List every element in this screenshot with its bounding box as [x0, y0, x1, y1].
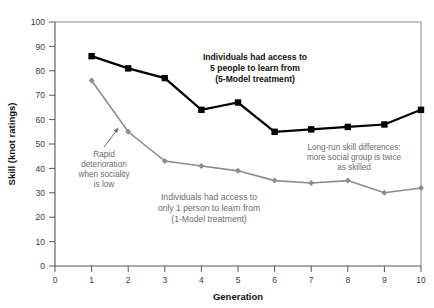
data-point-marker [308, 126, 314, 132]
annotation-line: Individuals had access to [203, 52, 307, 62]
y-tick-label: 90 [36, 42, 46, 52]
data-point-marker [381, 121, 387, 127]
x-tick-label: 10 [416, 275, 426, 285]
annotation-line: Rapid [93, 150, 115, 159]
annotation-line: (1-Model treatment) [171, 214, 247, 224]
y-tick-label: 20 [36, 212, 46, 222]
x-tick-label: 5 [236, 275, 241, 285]
x-tick-label: 4 [199, 275, 204, 285]
data-point-marker [271, 129, 277, 135]
data-point-marker [235, 99, 241, 105]
y-tick-label: 50 [36, 139, 46, 149]
data-point-marker [88, 53, 94, 59]
data-point-marker [125, 65, 131, 71]
annotation-line: (5-Model treatment) [215, 74, 295, 84]
y-tick-label: 40 [36, 164, 46, 174]
x-tick-label: 6 [272, 275, 277, 285]
annotation-line: deterioration [81, 160, 127, 169]
y-tick-label: 0 [40, 261, 45, 271]
annotation-line: is low [94, 180, 115, 189]
annotation-line: when sociality [78, 170, 131, 179]
annotation-line: 5 people to learn from [210, 63, 300, 73]
y-tick-label: 70 [36, 90, 46, 100]
y-axis-title: Skill (knot ratings) [6, 103, 17, 186]
chart-container: 100 90 80 70 60 50 40 30 20 10 0 [0, 0, 434, 308]
x-tick-label: 7 [309, 275, 314, 285]
y-tick-label: 80 [36, 66, 46, 76]
annotation-five-model: Individuals had access to 5 people to le… [203, 52, 307, 84]
y-tick-label: 10 [36, 237, 46, 247]
x-tick-label: 2 [126, 275, 131, 285]
x-axis-title: Generation [213, 291, 263, 302]
data-point-marker [345, 124, 351, 130]
y-tick-label: 100 [31, 17, 45, 27]
x-tick-label: 9 [382, 275, 387, 285]
x-tick-label: 0 [53, 275, 58, 285]
annotation-line: more social group is twice [307, 153, 402, 162]
x-tick-label: 8 [345, 275, 350, 285]
annotation-line: Long-run skill differences: [307, 143, 400, 152]
annotation-line: only 1 person to learn from [158, 203, 260, 213]
skill-by-generation-line-chart: 100 90 80 70 60 50 40 30 20 10 0 [0, 0, 434, 308]
annotation-one-model: Individuals had access to only 1 person … [158, 192, 260, 224]
annotation-line: as skilled [337, 163, 371, 172]
data-point-marker [418, 107, 424, 113]
annotation-line: Individuals had access to [161, 192, 257, 202]
y-tick-label: 30 [36, 188, 46, 198]
data-point-marker [162, 75, 168, 81]
x-tick-label: 1 [89, 275, 94, 285]
x-tick-label: 3 [162, 275, 167, 285]
data-point-marker [198, 107, 204, 113]
y-tick-label: 60 [36, 115, 46, 125]
